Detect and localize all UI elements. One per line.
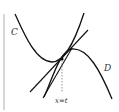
label-curve-c: C bbox=[11, 27, 18, 37]
label-x-equals-t: x=t bbox=[55, 97, 68, 105]
label-curve-d: D bbox=[103, 63, 111, 73]
tangent-line-c bbox=[30, 30, 88, 92]
tangent-curves-diagram: C D x=t bbox=[0, 0, 119, 112]
curve-d bbox=[44, 49, 112, 99]
curve-c bbox=[15, 13, 84, 62]
